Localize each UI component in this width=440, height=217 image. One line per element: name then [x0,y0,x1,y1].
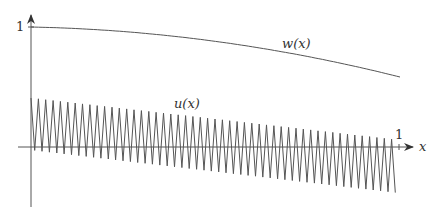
x-axis-label: x [419,140,426,153]
x-tick-label: 1 [395,128,403,141]
plot-area [0,0,440,217]
w-curve [31,27,400,77]
u-curve [31,98,395,193]
w-curve-label: w(x) [282,37,311,50]
diagram: 1 1 x w(x) u(x) [0,0,440,217]
y-tick-label: 1 [16,20,24,33]
u-curve-label: u(x) [174,97,200,110]
